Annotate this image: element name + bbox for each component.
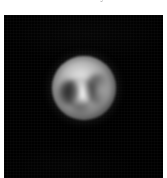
limb-darkening-vignette	[52, 56, 116, 120]
astronomical-image-panel	[4, 15, 163, 178]
planetary-disk-group	[52, 56, 116, 120]
caption-strip: their surfaces to be surveyed	[0, 0, 167, 7]
page-background: their surfaces to be surveyed	[0, 0, 167, 178]
caption-text: their surfaces to be surveyed	[3, 0, 167, 2]
planetary-disk	[52, 56, 116, 120]
